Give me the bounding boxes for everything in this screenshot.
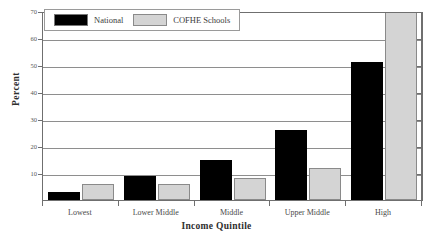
bar-cofhe-schools-lower-middle <box>158 184 190 200</box>
y-tick-label: 60 <box>31 35 38 42</box>
y-tick-label: 20 <box>31 143 38 150</box>
legend-label-national: National <box>94 15 123 25</box>
right-tick <box>417 93 422 94</box>
x-axis-label-middle: Middle <box>220 208 243 217</box>
bar-chart: Percent 10203040506070 LowestLower Middl… <box>0 0 433 238</box>
y-tick: 10 <box>0 174 42 175</box>
y-tick-label: 40 <box>31 89 38 96</box>
y-tick: 70 <box>0 12 42 13</box>
y-tick: 30 <box>0 120 42 121</box>
x-axis-label-lowest: Lowest <box>68 208 92 217</box>
y-tick-label: 10 <box>31 170 38 177</box>
right-tick <box>417 12 422 13</box>
x-tick <box>269 201 270 206</box>
x-axis-label-high: High <box>375 208 391 217</box>
right-tick <box>417 120 422 121</box>
x-axis-label-lower-middle: Lower Middle <box>133 208 179 217</box>
bar-national-middle <box>200 160 232 201</box>
black-swatch-icon <box>54 14 88 26</box>
gridline <box>43 40 421 41</box>
legend-entry-national: National <box>54 14 123 26</box>
legend-label-cofhe: COFHE Schools <box>173 15 230 25</box>
plot-area <box>42 12 421 201</box>
x-tick <box>118 201 119 206</box>
right-tick <box>417 66 422 67</box>
bar-cofhe-schools-lowest <box>82 184 114 200</box>
bar-national-lowest <box>48 192 80 200</box>
gray-swatch-icon <box>133 14 167 26</box>
bar-cofhe-schools-upper-middle <box>309 168 341 200</box>
right-axis-spine <box>421 12 423 201</box>
x-axis-label-upper-middle: Upper Middle <box>285 208 330 217</box>
y-tick-label: 70 <box>31 8 38 15</box>
legend-entry-cofhe: COFHE Schools <box>133 14 230 26</box>
bar-national-lower-middle <box>124 176 156 200</box>
x-axis-title: Income Quintile <box>0 221 433 231</box>
y-tick: 20 <box>0 147 42 148</box>
bar-national-high <box>351 62 383 200</box>
bar-cofhe-schools-high <box>385 12 417 200</box>
x-tick <box>345 201 346 206</box>
y-tick-label: 50 <box>31 62 38 69</box>
x-tick <box>194 201 195 206</box>
y-tick: 50 <box>0 66 42 67</box>
chart-legend: National COFHE Schools <box>44 9 240 31</box>
bar-national-upper-middle <box>275 130 307 200</box>
right-tick <box>417 39 422 40</box>
right-tick <box>417 174 422 175</box>
y-tick-label: 30 <box>31 116 38 123</box>
bar-cofhe-schools-middle <box>234 178 266 200</box>
x-tick <box>42 201 43 206</box>
y-tick: 60 <box>0 39 42 40</box>
x-tick <box>421 201 422 206</box>
y-tick: 40 <box>0 93 42 94</box>
right-tick <box>417 147 422 148</box>
